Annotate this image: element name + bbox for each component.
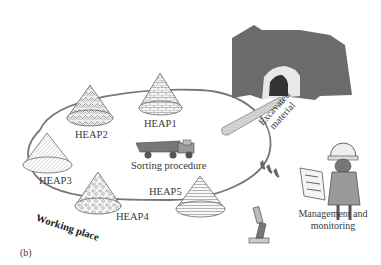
heap1-cone [139,73,182,115]
heap5-label: HEAP5 [149,187,182,198]
management-line2: monitoring [287,220,379,232]
heap3-label: HEAP3 [39,176,72,187]
heap4-cone [75,172,121,214]
dump-truck-icon [136,140,194,159]
heap2-label: HEAP2 [75,130,108,141]
management-monitoring-label: Management and monitoring [287,208,379,232]
microscope-icon [249,206,269,243]
heap4-label: HEAP4 [116,212,149,223]
panel-label: (b) [20,248,32,258]
heap1-label: HEAP1 [144,119,177,130]
sorting-procedure-label: Sorting procedure [131,161,207,172]
heap5-cone [176,176,225,217]
return-arrows-icon [260,160,279,177]
management-line1: Management and [287,208,379,220]
tunnel-mountain-icon [232,25,352,100]
heap3-cone [23,133,72,173]
